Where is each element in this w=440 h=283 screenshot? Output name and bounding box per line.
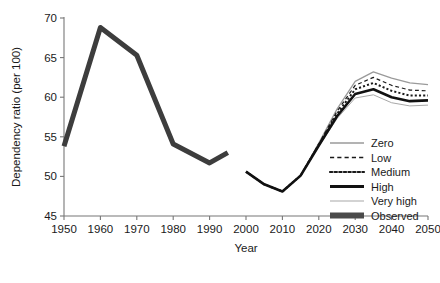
x-tick-label: 1970 [124,223,150,235]
x-tick-label: 2030 [342,223,368,235]
legend-label-observed: Observed [371,210,419,222]
x-tick-label: 1960 [88,223,114,235]
series-observed [64,28,228,163]
legend-label-low: Low [371,152,391,164]
legend-label-zero: Zero [371,137,394,149]
x-tick-label: 1950 [51,223,77,235]
x-tick-label: 2000 [233,223,259,235]
dependency-ratio-chart: 4550556065701950196019701980199020002010… [0,0,440,283]
y-tick-label: 65 [44,52,57,64]
x-axis-title: Year [234,242,257,254]
y-tick-label: 60 [44,91,57,103]
y-axis-title: Dependency ratio (per 100) [10,47,22,187]
y-axis-ticks: 455055606570 [44,12,64,222]
x-tick-label: 1980 [160,223,186,235]
x-tick-label: 2040 [379,223,405,235]
x-tick-label: 2010 [270,223,296,235]
x-tick-label: 2020 [306,223,332,235]
legend-label-medium: Medium [371,166,410,178]
y-tick-label: 55 [44,131,57,143]
chart-canvas: 4550556065701950196019701980199020002010… [0,0,440,283]
y-tick-label: 70 [44,12,57,24]
legend: ZeroLowMediumHighVery highObserved [330,137,419,222]
x-tick-label: 2050 [415,223,440,235]
y-tick-label: 50 [44,170,57,182]
y-tick-label: 45 [44,210,57,222]
legend-label-very-high: Very high [371,195,417,207]
x-tick-label: 1990 [197,223,223,235]
legend-label-high: High [371,181,394,193]
